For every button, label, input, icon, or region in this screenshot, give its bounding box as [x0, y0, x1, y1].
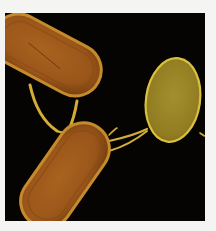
bacteria-illustration: [5, 13, 205, 221]
lower-cell: [10, 113, 119, 221]
upper-left-cell: [5, 13, 110, 105]
right-cell: [140, 55, 205, 146]
micrograph-panel: [5, 13, 205, 221]
